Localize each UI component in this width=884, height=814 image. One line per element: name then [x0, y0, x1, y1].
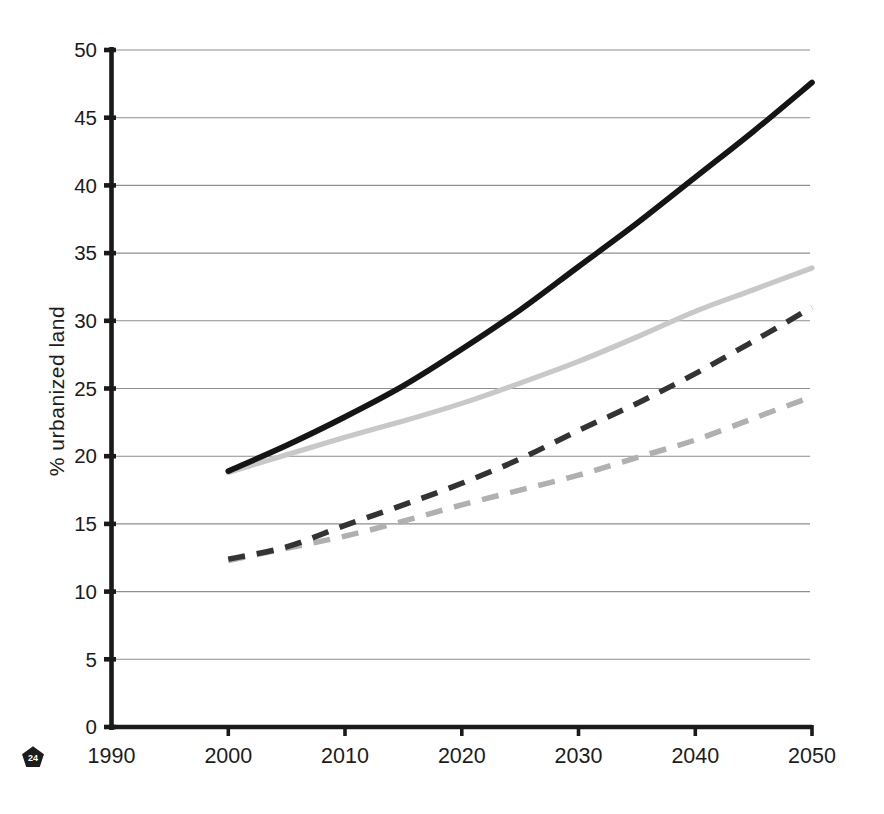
y-tick-label: 5 [86, 648, 97, 671]
urbanization-line-chart: 0510152025303540455019902000201020202030… [0, 0, 884, 814]
x-tick-label: 2000 [204, 744, 252, 768]
y-tick-label: 30 [74, 309, 97, 332]
y-tick-label: 45 [74, 106, 97, 129]
x-tick-label: 1990 [88, 744, 136, 768]
y-axis-title: % urbanized land [45, 306, 69, 476]
x-tick-label: 2030 [555, 744, 603, 768]
series-solid-black [228, 83, 812, 472]
x-tick-label: 2040 [671, 744, 719, 768]
series-solid-light-gray [228, 268, 812, 472]
x-tick-label: 2050 [788, 744, 836, 768]
y-tick-label: 10 [74, 580, 97, 603]
y-tick-label: 0 [86, 715, 97, 738]
y-tick-label: 50 [74, 38, 97, 61]
y-tick-label: 40 [74, 174, 97, 197]
axes [104, 47, 812, 736]
y-tick-label: 25 [74, 377, 97, 400]
x-tick-label: 2010 [321, 744, 369, 768]
y-tick-label: 15 [74, 512, 97, 535]
page-marker-number: 24 [28, 753, 38, 763]
series-group [228, 83, 812, 561]
y-tick-labels: 05101520253035404550 [74, 38, 97, 738]
x-tick-labels: 1990200020102020203020402050 [88, 744, 836, 768]
y-tick-label: 35 [74, 241, 97, 264]
y-tick-label: 20 [74, 444, 97, 467]
x-tick-label: 2020 [438, 744, 486, 768]
page-marker-pentagon-icon: 24 [21, 745, 45, 769]
gridlines [113, 50, 810, 659]
